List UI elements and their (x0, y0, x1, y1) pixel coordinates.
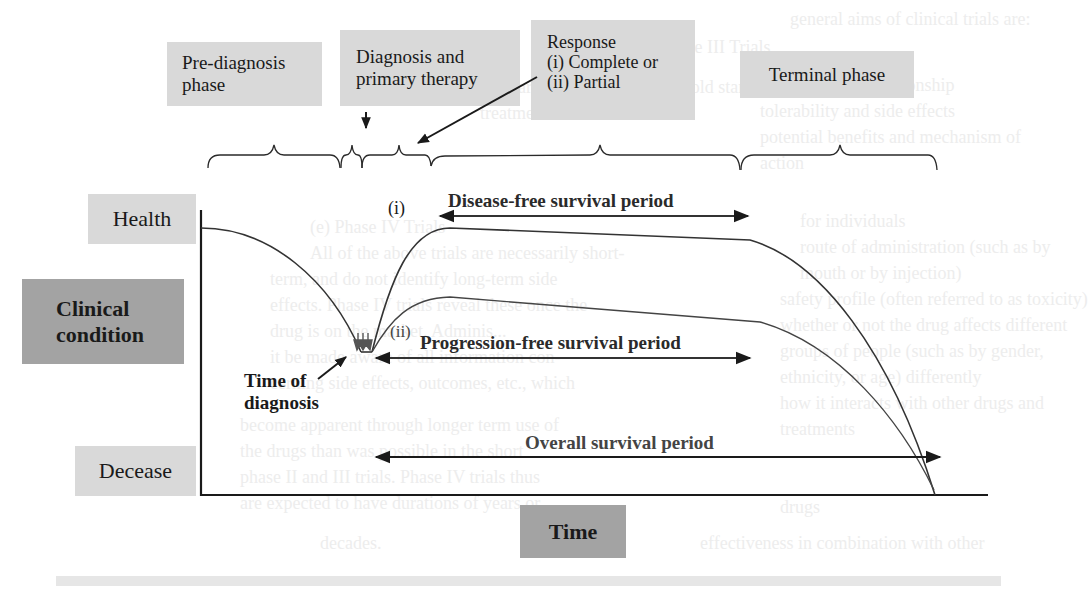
therapy-arrows (354, 333, 372, 350)
curve-complete-response (372, 228, 935, 495)
curve-i-label: (i) (388, 198, 405, 219)
time-of-diagnosis-label: Time of diagnosis (244, 370, 319, 414)
time-of-diagnosis-line: Time of (244, 370, 319, 392)
curve-ii-label: (ii) (390, 322, 411, 342)
phase-braces (208, 145, 937, 170)
disease-free-survival-label: Disease-free survival period (448, 190, 674, 212)
decline-curve (201, 228, 361, 352)
overall-survival-label: Overall survival period (525, 432, 714, 454)
response-pointer-arrow (418, 77, 537, 143)
progression-free-survival-label: Progression-free survival period (420, 332, 681, 354)
time-of-diagnosis-line: diagnosis (244, 392, 319, 414)
time-of-diagnosis-arrow (318, 357, 346, 379)
curve-partial-response (372, 297, 934, 490)
